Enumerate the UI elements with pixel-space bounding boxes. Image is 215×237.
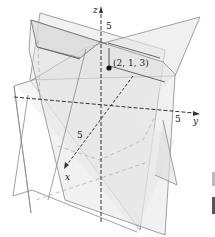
x-tick-label: 5: [77, 130, 83, 140]
right-edge-mark-lower: [212, 197, 215, 214]
x-axis-label: x: [65, 172, 70, 182]
y-tick-label: 5: [175, 114, 181, 124]
intersection-point-label: (2, 1, 3): [113, 58, 149, 68]
three-planes-diagram: z 5 y 5 x 5 (2, 1, 3): [0, 0, 215, 237]
z-tick-label: 5: [106, 21, 112, 31]
y-axis-label: y: [192, 116, 199, 126]
intersection-point-marker: [106, 65, 111, 70]
z-axis-label: z: [92, 5, 98, 15]
right-edge-mark-upper: [212, 172, 215, 186]
